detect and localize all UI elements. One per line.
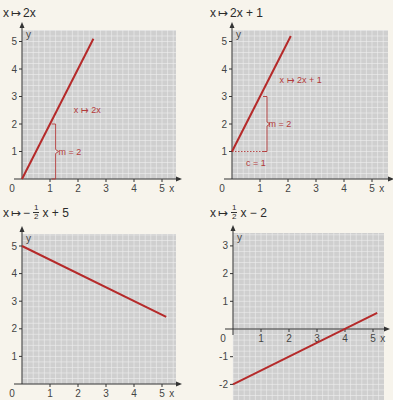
x-tick-label: 3 xyxy=(103,388,109,399)
x-tick-label: 1 xyxy=(258,333,264,344)
y-axis-arrow-icon xyxy=(231,225,236,231)
plots-canvas: 12345123450xyx ↦ 2xm = 212345123450xyx ↦… xyxy=(0,0,393,400)
y-tick-label: 5 xyxy=(11,36,17,47)
x-tick-label: 4 xyxy=(131,388,137,399)
y-axis-arrow-icon xyxy=(20,22,25,28)
x-tick-label: 1 xyxy=(47,388,53,399)
y-tick-label: 2 xyxy=(11,323,17,334)
y-axis-label: y xyxy=(26,29,31,40)
x-axis-label: x xyxy=(380,333,385,344)
origin-label: 0 xyxy=(9,388,15,399)
x-tick-label: 5 xyxy=(370,333,376,344)
y-tick-label: 2 xyxy=(221,119,227,130)
y-tick-label: 3 xyxy=(11,296,17,307)
origin-label: 0 xyxy=(220,333,226,344)
annotation-label: x ↦ 2x + 1 xyxy=(280,75,322,85)
annotation-label: c = 1 xyxy=(246,158,266,168)
x-axis-arrow-icon xyxy=(384,327,390,332)
x-tick-label: 4 xyxy=(131,183,137,194)
x-tick-label: 2 xyxy=(286,333,292,344)
x-tick-label: 5 xyxy=(369,183,375,194)
y-tick-label: 1 xyxy=(11,146,17,157)
y-tick-label: 2 xyxy=(11,119,17,130)
x-tick-label: 5 xyxy=(159,183,165,194)
y-tick-label: 4 xyxy=(221,64,227,75)
x-axis-arrow-icon xyxy=(388,177,393,182)
y-tick-label: 5 xyxy=(221,36,227,47)
x-tick-label: 2 xyxy=(285,183,291,194)
y-tick-label: 1 xyxy=(221,146,227,157)
y-axis-label: y xyxy=(26,233,31,244)
x-axis-arrow-icon xyxy=(176,382,182,387)
y-tick-label: 2 xyxy=(222,268,228,279)
y-tick-label: 3 xyxy=(221,91,227,102)
x-tick-label: 3 xyxy=(103,183,109,194)
y-tick-label: 3 xyxy=(222,240,228,251)
y-axis-arrow-icon xyxy=(20,226,25,232)
y-axis-label: y xyxy=(236,29,241,40)
chart-panel-1: 12345123450xyx ↦ 2xm = 2 xyxy=(9,22,182,194)
chart-panel-3: 12345123450xy xyxy=(9,226,182,399)
y-tick-label: 1 xyxy=(222,296,228,307)
y-tick-label: 3 xyxy=(11,91,17,102)
y-axis-arrow-icon xyxy=(230,22,235,28)
y-axis-label: y xyxy=(237,232,242,243)
annotation-label: m = 2 xyxy=(58,147,81,157)
x-tick-label: 2 xyxy=(75,183,81,194)
y-tick-label: 4 xyxy=(11,268,17,279)
x-tick-label: 3 xyxy=(313,183,319,194)
x-axis-label: x xyxy=(379,183,384,194)
chart-panel-2: 12345123450xyx ↦ 2x + 1m = 2c = 1 xyxy=(219,22,393,194)
chart-panel-4: 12345-2-11230xy xyxy=(219,225,390,400)
y-tick-label: 4 xyxy=(11,64,17,75)
y-tick-label: 5 xyxy=(11,241,17,252)
x-axis-label: x xyxy=(169,388,174,399)
x-tick-label: 5 xyxy=(159,388,165,399)
y-tick-label: -2 xyxy=(219,379,228,390)
x-tick-label: 4 xyxy=(342,333,348,344)
origin-label: 0 xyxy=(219,183,225,194)
annotation-label: x ↦ 2x xyxy=(74,105,102,115)
x-axis-label: x xyxy=(169,183,174,194)
x-tick-label: 1 xyxy=(47,183,53,194)
x-axis-arrow-icon xyxy=(176,177,182,182)
x-tick-label: 2 xyxy=(75,388,81,399)
y-tick-label: 1 xyxy=(11,351,17,362)
annotation-label: m = 2 xyxy=(268,119,291,129)
origin-label: 0 xyxy=(9,183,15,194)
y-tick-label: -1 xyxy=(219,351,228,362)
x-tick-label: 4 xyxy=(341,183,347,194)
x-tick-label: 1 xyxy=(257,183,263,194)
